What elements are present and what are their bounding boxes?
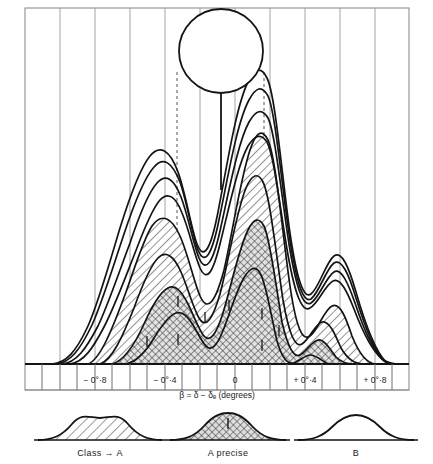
tick-label-2: 0 (233, 375, 238, 385)
legend-label-a-precise: A precise (208, 448, 249, 458)
legend-label-class-a: Class → A (77, 448, 123, 458)
axis-title-group: β = δ − δₑ (degrees) (179, 390, 255, 400)
legend-item-class-b: B (294, 415, 418, 458)
legend-item-a-precise: A precise (166, 413, 290, 458)
legend-label-class-b: B (353, 448, 359, 458)
axis-title: β = δ − δₑ (degrees) (179, 390, 255, 400)
scientific-figure: − 0°·8 − 0°·4 0 + 0°·4 + 0°·8 β = δ − δₑ… (0, 0, 433, 464)
tick-label-3: + 0°·4 (293, 375, 316, 385)
tick-label-0: − 0°·8 (83, 375, 106, 385)
legend-curve-line-class-b (298, 415, 414, 440)
circle-marker (179, 9, 263, 93)
tick-label-1: − 0°·4 (153, 375, 176, 385)
axis-tick-labels: − 0°·8 − 0°·4 0 + 0°·4 + 0°·8 (83, 375, 386, 385)
tick-label-4: + 0°·8 (363, 375, 386, 385)
figure-root: − 0°·8 − 0°·4 0 + 0°·4 + 0°·8 β = δ − δₑ… (0, 0, 433, 464)
distribution-curves (52, 70, 409, 366)
legend-item-class-a: Class → A (34, 417, 166, 459)
